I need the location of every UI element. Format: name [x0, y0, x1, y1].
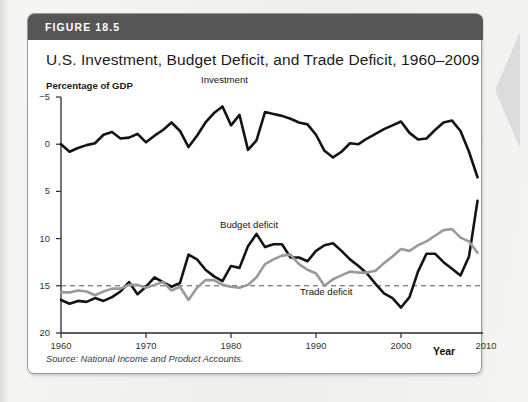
figure-page: FIGURE 18.5 U.S. Investment, Budget Defi… [0, 0, 528, 402]
source-note: Source: National Income and Product Acco… [46, 354, 244, 364]
figure-card: FIGURE 18.5 U.S. Investment, Budget Defi… [27, 13, 482, 374]
series-annotation-trade-deficit: Trade deficit [300, 286, 352, 297]
line-chart [28, 14, 483, 375]
x-tick-label: 1960 [51, 340, 72, 351]
next-page-chevron-icon[interactable] [492, 30, 522, 150]
series-line-budget-deficit [61, 201, 478, 308]
page-left-edge-shadow [0, 0, 8, 402]
x-tick-label: 2000 [391, 340, 412, 351]
x-axis-title: Year [433, 345, 455, 357]
chart-plot-area [28, 14, 483, 375]
y-tick-label: 5 [45, 185, 50, 196]
y-tick-label: 20 [40, 327, 50, 338]
x-tick-label: 2010 [476, 340, 497, 351]
x-tick-label: 1990 [306, 340, 327, 351]
y-tick-label: 0 [45, 138, 50, 149]
series-annotation-budget-deficit: Budget deficit [220, 219, 278, 230]
x-tick-label: 1980 [221, 340, 242, 351]
y-tick-label: −5 [39, 91, 50, 102]
series-line-investment [61, 106, 478, 177]
y-tick-label: 15 [40, 280, 50, 291]
x-tick-label: 1970 [136, 340, 157, 351]
y-tick-label: 10 [40, 233, 50, 244]
series-annotation-investment: Investment [201, 74, 248, 85]
